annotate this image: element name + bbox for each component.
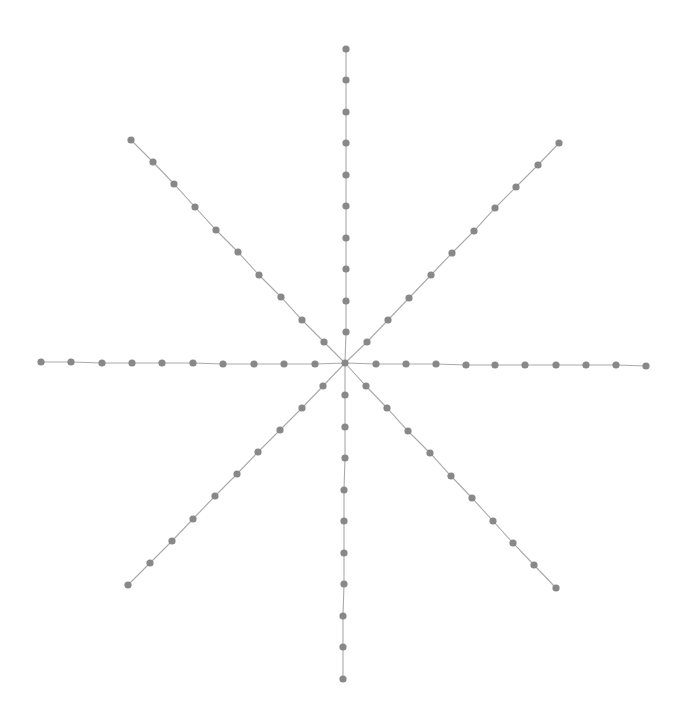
node-north-west [127, 136, 134, 143]
node-south [341, 423, 348, 430]
node-south-east [404, 427, 411, 434]
node-east [642, 362, 649, 369]
center-node [341, 359, 348, 366]
node-south-east [509, 539, 516, 546]
node-west [219, 360, 226, 367]
node-north-east [470, 227, 477, 234]
node-south-east [383, 404, 390, 411]
node-south-west [254, 448, 261, 455]
node-north-east [384, 316, 391, 323]
node-north-east [491, 204, 498, 211]
node-north-east [512, 183, 519, 190]
node-north [342, 45, 349, 52]
node-east [582, 361, 589, 368]
node-south-west [124, 581, 131, 588]
node-east [552, 361, 559, 368]
node-south-west [146, 559, 153, 566]
node-north-east [363, 338, 370, 345]
node-north [342, 265, 349, 272]
node-south-west [233, 470, 240, 477]
node-south-west [319, 382, 326, 389]
node-west [98, 359, 105, 366]
node-north-east [555, 139, 562, 146]
node-north [342, 76, 349, 83]
node-east [521, 361, 528, 368]
node-south-east [426, 449, 433, 456]
node-west [37, 358, 44, 365]
node-north [342, 139, 349, 146]
node-west [311, 360, 318, 367]
nodes-layer [37, 45, 649, 682]
node-north [342, 234, 349, 241]
node-south [340, 486, 347, 493]
node-north-west [255, 271, 262, 278]
node-south [341, 454, 348, 461]
node-south [340, 549, 347, 556]
star-graph [0, 0, 684, 728]
node-north [342, 202, 349, 209]
node-west [67, 358, 74, 365]
node-south [340, 517, 347, 524]
node-south-west [298, 404, 305, 411]
node-east [491, 361, 498, 368]
node-south [341, 391, 348, 398]
node-east [372, 360, 379, 367]
node-north-east [405, 294, 412, 301]
node-north-east [448, 249, 455, 256]
node-north-west [320, 338, 327, 345]
node-south-east [362, 382, 369, 389]
node-north-west [191, 203, 198, 210]
node-south-west [276, 426, 283, 433]
node-south-east [552, 584, 559, 591]
node-north-east [427, 271, 434, 278]
node-west [158, 359, 165, 366]
node-east [612, 361, 619, 368]
node-east [402, 360, 409, 367]
node-north-west [149, 158, 156, 165]
node-south [339, 643, 346, 650]
node-south [340, 580, 347, 587]
node-south-east [468, 494, 475, 501]
node-north [342, 297, 349, 304]
node-south [339, 612, 346, 619]
node-north-west [212, 226, 219, 233]
node-west [280, 360, 287, 367]
node-south-east [530, 561, 537, 568]
node-south-west [189, 515, 196, 522]
node-west [128, 359, 135, 366]
node-west [189, 359, 196, 366]
node-south-west [211, 492, 218, 499]
node-south-east [489, 517, 496, 524]
node-north-west [277, 293, 284, 300]
node-east [432, 360, 439, 367]
node-north-east [534, 161, 541, 168]
node-north [342, 171, 349, 178]
node-south-east [447, 472, 454, 479]
node-south [339, 675, 346, 682]
node-north [342, 328, 349, 335]
node-west [250, 360, 257, 367]
node-north-west [298, 316, 305, 323]
node-north [342, 108, 349, 115]
diagram-canvas [0, 0, 684, 728]
node-south-west [168, 537, 175, 544]
node-east [462, 361, 469, 368]
node-north-west [170, 180, 177, 187]
node-north-west [234, 248, 241, 255]
